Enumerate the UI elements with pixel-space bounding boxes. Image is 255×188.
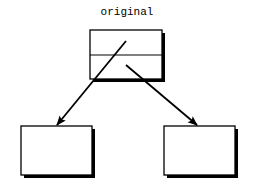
node-box	[21, 126, 92, 175]
node-left-child[interactable]	[21, 126, 95, 178]
diagram-title: original	[101, 6, 154, 18]
diagram-canvas: original	[0, 0, 255, 188]
node-box	[164, 126, 235, 175]
node-right-child[interactable]	[164, 126, 238, 178]
node-original[interactable]	[90, 30, 165, 82]
